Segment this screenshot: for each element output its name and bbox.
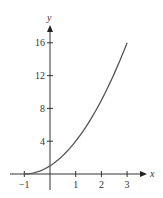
y-axis-arrow-icon <box>47 25 53 32</box>
x-tick-label: 1 <box>73 179 78 190</box>
y-axis-label: y <box>46 12 52 23</box>
x-tick-label: 3 <box>125 179 130 190</box>
y-tick-label: 4 <box>40 136 45 147</box>
x-axis-label: x <box>149 168 155 179</box>
y-tick-label: 16 <box>35 37 45 48</box>
x-tick-label: 2 <box>99 179 104 190</box>
x-tick-label: −1 <box>19 179 30 190</box>
y-tick-label: 8 <box>40 103 45 114</box>
x-axis-arrow-icon <box>140 171 147 177</box>
function-plot: x y −1123481216 <box>0 0 163 198</box>
y-tick-label: 12 <box>35 70 45 81</box>
